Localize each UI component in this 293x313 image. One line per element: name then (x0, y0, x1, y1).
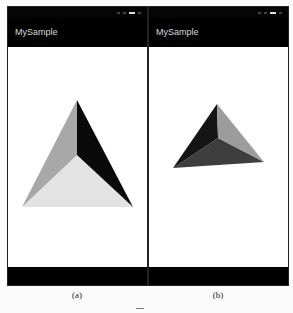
pyramid-render-layer (0, 0, 293, 313)
pyramid-b (173, 104, 264, 168)
caption-b: (b) (213, 290, 224, 300)
pyramid-a (22, 100, 133, 207)
caption-a: (a) (72, 290, 82, 300)
figure-mark (136, 308, 144, 309)
